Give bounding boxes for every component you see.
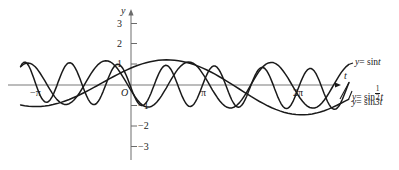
y-tick-label-minus-1: −1 <box>138 101 149 111</box>
curve-sin-3t <box>21 62 349 109</box>
curve-label-sin-t-arg: t <box>378 57 381 67</box>
leader-line-sin-t <box>349 63 353 65</box>
plot-canvas <box>0 0 399 170</box>
trig-functions-plot: y t O −π π 2π 3 2 1 −1 −2 −3 y= sint y= … <box>0 0 399 170</box>
curve-label-sin-3t: y= sin3t <box>352 98 382 108</box>
x-tick-label-pi: π <box>201 88 206 98</box>
y-tick-label-minus-3: −3 <box>138 142 149 152</box>
y-tick-label-minus-2: −2 <box>138 121 149 131</box>
y-tick-label-2: 2 <box>117 39 122 49</box>
y-tick-label-1: 1 <box>117 59 122 69</box>
x-tick-label-minus-pi: −π <box>30 88 41 98</box>
y-axis-label: y <box>121 6 125 16</box>
curve-label-sin-3t-arg: 3t <box>375 97 382 107</box>
x-tick-label-2pi: 2π <box>293 88 303 98</box>
origin-label: O <box>121 88 128 98</box>
leader-line-sin-3t <box>340 83 349 100</box>
curve-label-sin-3t-eq: = sin <box>356 97 375 107</box>
curve-label-sin-t: y= sint <box>355 58 381 68</box>
curve-label-sin-t-eq: = sin <box>359 57 378 67</box>
x-axis-label: t <box>344 71 347 81</box>
axes-group <box>8 15 335 160</box>
y-tick-label-3: 3 <box>117 19 122 29</box>
